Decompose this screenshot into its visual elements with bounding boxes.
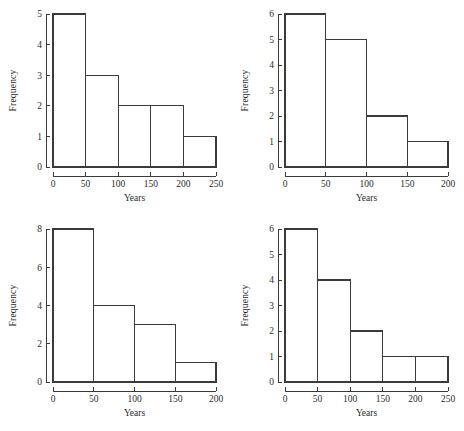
y-tick-label: 2 [269,111,274,121]
histogram-bars [285,229,448,382]
y-tick-label: 0 [37,377,42,387]
chart-panel-bottom-right: 0123456050100150200250YearsFrequency [232,215,464,430]
x-tick-label: 50 [321,179,331,189]
x-axis-title: Years [356,193,378,203]
y-tick-label: 5 [37,9,42,19]
y-tick-label: 1 [37,132,42,142]
x-tick-label: 250 [441,394,456,404]
x-tick-label: 150 [400,179,415,189]
x-axis-title: Years [356,408,378,418]
x-tick-label: 0 [283,394,288,404]
bar-outline-path [285,229,448,382]
x-tick-label: 0 [283,179,288,189]
y-axis-title: Frequency [240,285,250,327]
x-tick-label: 100 [111,179,126,189]
y-axis-title: Frequency [8,70,18,112]
x-tick-label: 100 [127,394,142,404]
y-tick-label: 6 [269,224,274,234]
histogram-bottom-left: 02468050100150200YearsFrequency [0,215,232,430]
chart-panel-top-left: 012345050100150200250YearsFrequency [0,0,232,215]
chart-panel-top-right: 0123456050100150200YearsFrequency [232,0,464,215]
y-tick-label: 1 [269,352,274,362]
x-tick-label: 0 [51,394,56,404]
x-tick-label: 150 [168,394,183,404]
x-tick-label: 100 [359,179,374,189]
x-tick-label: 250 [209,179,224,189]
bar-outline-path [53,14,216,167]
x-tick-label: 150 [144,179,159,189]
histogram-top-left: 012345050100150200250YearsFrequency [0,0,232,215]
y-axis: 012345 [37,9,50,172]
y-tick-label: 1 [269,137,274,147]
y-tick-label: 2 [269,326,274,336]
x-tick-label: 200 [441,179,456,189]
y-tick-label: 0 [269,377,274,387]
y-tick-label: 6 [37,263,42,273]
x-axis: 050100150200250 [51,172,224,189]
histogram-top-right: 0123456050100150200YearsFrequency [232,0,464,215]
histogram-bars [53,229,216,382]
x-tick-label: 50 [313,394,323,404]
y-tick-label: 2 [37,101,42,111]
chart-panel-bottom-left: 02468050100150200YearsFrequency [0,215,232,430]
x-tick-label: 50 [81,179,91,189]
x-axis: 050100150200 [283,172,456,189]
x-tick-label: 0 [51,179,56,189]
y-axis-title: Frequency [8,285,18,327]
x-tick-label: 150 [376,394,391,404]
y-tick-label: 5 [269,35,274,45]
y-tick-label: 3 [269,301,274,311]
x-axis: 050100150200250 [283,387,456,404]
x-axis: 050100150200 [51,387,224,404]
y-tick-label: 0 [37,162,42,172]
y-tick-label: 5 [269,250,274,260]
x-tick-label: 200 [408,394,423,404]
y-tick-label: 3 [37,71,42,81]
y-tick-label: 4 [37,40,42,50]
histogram-bottom-right: 0123456050100150200250YearsFrequency [232,215,464,430]
y-tick-label: 3 [269,86,274,96]
y-axis: 0123456 [269,9,282,172]
histogram-bars [53,14,216,167]
y-axis: 0123456 [269,224,282,387]
y-tick-label: 8 [37,224,42,234]
x-tick-label: 200 [176,179,191,189]
histogram-bars [285,14,448,167]
x-tick-label: 50 [89,394,99,404]
y-tick-label: 4 [269,275,274,285]
y-tick-label: 0 [269,162,274,172]
y-tick-label: 6 [269,9,274,19]
x-axis-title: Years [124,193,146,203]
x-tick-label: 200 [209,394,224,404]
x-axis-title: Years [124,408,146,418]
y-axis-title: Frequency [240,70,250,112]
y-tick-label: 2 [37,339,42,349]
x-tick-label: 100 [343,394,358,404]
y-tick-label: 4 [37,301,42,311]
y-axis: 02468 [37,224,50,387]
histogram-figure: 012345050100150200250YearsFrequency 0123… [0,0,464,431]
y-tick-label: 4 [269,60,274,70]
